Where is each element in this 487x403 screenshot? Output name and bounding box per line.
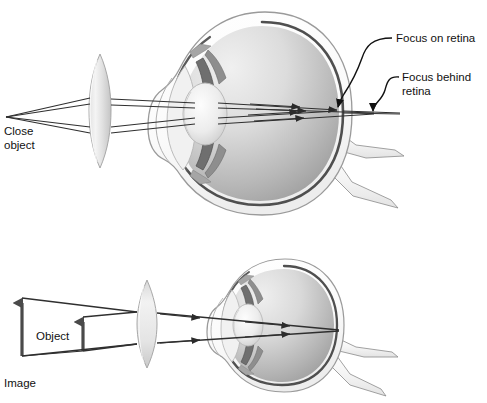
label-focus-behind-retina-line2: retina <box>402 85 431 97</box>
figure-canvas: Focus on retina Focus behind retina Clos… <box>0 0 487 403</box>
label-object: Object <box>36 330 70 342</box>
label-image: Image <box>4 377 36 389</box>
label-close-object-line1: Close <box>4 125 33 137</box>
eye-accommodation-diagram: Focus on retina Focus behind retina Clos… <box>0 0 487 403</box>
label-focus-behind-retina-line1: Focus behind <box>402 71 471 83</box>
label-focus-on-retina: Focus on retina <box>396 32 476 44</box>
crystalline-lens-bottom <box>233 304 263 346</box>
crystalline-lens-top <box>183 83 227 145</box>
label-close-object-line2: object <box>4 139 35 151</box>
